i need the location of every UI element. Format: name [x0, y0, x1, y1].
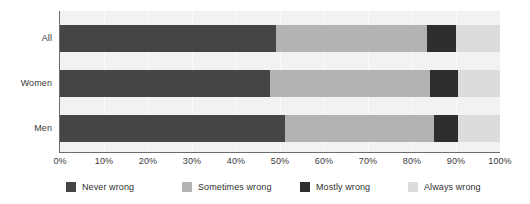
bar-segment: [60, 25, 276, 52]
chart-legend: Never wrongSometimes wrongMostly wrongAl…: [0, 180, 530, 196]
legend-swatch-icon: [66, 182, 76, 192]
x-tick-label: 90%: [447, 156, 465, 166]
bar-segment: [60, 70, 270, 97]
stacked-bar-chart: AllWomenMen 0%10%20%30%40%50%60%70%80%90…: [0, 0, 530, 204]
legend-label: Never wrong: [82, 182, 134, 192]
x-tick-label: 20%: [139, 156, 157, 166]
legend-item[interactable]: Always wrong: [408, 180, 481, 194]
bar-segment: [434, 115, 458, 142]
legend-label: Mostly wrong: [316, 182, 370, 192]
bar-segment: [427, 25, 456, 52]
x-tick-label: 60%: [315, 156, 333, 166]
x-tick-label: 10%: [95, 156, 113, 166]
bar-segment: [285, 115, 434, 142]
legend-label: Sometimes wrong: [198, 182, 272, 192]
category-label-women: Women: [21, 78, 52, 88]
legend-item[interactable]: Never wrong: [66, 180, 134, 194]
bar-segment: [458, 115, 500, 142]
bar-segment: [60, 115, 285, 142]
x-tick-label: 0%: [53, 156, 66, 166]
x-tick-label: 40%: [227, 156, 245, 166]
x-tick-label: 50%: [271, 156, 289, 166]
x-tick-label: 30%: [183, 156, 201, 166]
bar-segment: [430, 70, 459, 97]
bar-row: [60, 70, 500, 97]
bar-segment: [456, 25, 500, 52]
category-label-all: All: [42, 33, 52, 43]
legend-item[interactable]: Mostly wrong: [300, 180, 370, 194]
bar-segment: [458, 70, 500, 97]
bar-segment: [276, 25, 428, 52]
plot-area: [60, 11, 500, 152]
legend-label: Always wrong: [424, 182, 481, 192]
x-tick-label: 80%: [403, 156, 421, 166]
legend-swatch-icon: [182, 182, 192, 192]
y-axis-line: [59, 11, 60, 152]
legend-item[interactable]: Sometimes wrong: [182, 180, 272, 194]
x-axis-line: [59, 152, 500, 153]
x-tick-label: 70%: [359, 156, 377, 166]
x-tick-label: 100%: [488, 156, 511, 166]
bar-segment: [270, 70, 430, 97]
bar-row: [60, 25, 500, 52]
bar-row: [60, 115, 500, 142]
legend-swatch-icon: [300, 182, 310, 192]
category-label-men: Men: [34, 123, 52, 133]
legend-swatch-icon: [408, 182, 418, 192]
